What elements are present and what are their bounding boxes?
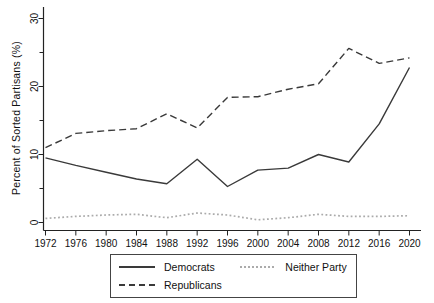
republicans-line-swatch-icon [119, 284, 155, 286]
x-tick-label: 2000 [247, 238, 270, 249]
series-line-democrats [46, 68, 410, 187]
legend: Democrats Neither Party Republicans [110, 254, 357, 298]
democrats-line-swatch-icon [119, 266, 155, 268]
legend-item-republicans: Republicans [119, 279, 240, 291]
legend-item-neither-party: Neither Party [240, 261, 348, 273]
y-tick-label: 10 [29, 149, 40, 161]
legend-label-neither-party: Neither Party [285, 261, 346, 273]
x-tick-label: 2008 [307, 238, 330, 249]
legend-label-republicans: Republicans [164, 279, 222, 291]
x-tick-label: 2004 [277, 238, 300, 249]
series-line-neither-party [46, 213, 410, 220]
sorted-partisans-chart: 0102030197219761980198419881992199620002… [0, 0, 434, 303]
y-axis-title: Percent of Sorted Partisans (%) [10, 0, 22, 238]
x-tick-label: 1988 [156, 238, 179, 249]
x-tick-label: 1984 [125, 238, 148, 249]
y-tick-label: 0 [29, 219, 40, 225]
series-line-republicans [46, 48, 410, 147]
legend-item-democrats: Democrats [119, 261, 240, 273]
x-tick-label: 1992 [186, 238, 209, 249]
x-tick-label: 2012 [338, 238, 361, 249]
x-tick-label: 2020 [398, 238, 421, 249]
y-tick-label: 30 [29, 13, 40, 25]
x-tick-label: 1996 [216, 238, 239, 249]
x-tick-label: 2016 [368, 238, 391, 249]
y-tick-label: 20 [29, 81, 40, 93]
x-tick-label: 1972 [34, 238, 57, 249]
neither-party-line-swatch-icon [240, 266, 276, 268]
x-tick-label: 1976 [65, 238, 88, 249]
legend-label-democrats: Democrats [164, 261, 215, 273]
x-tick-label: 1980 [95, 238, 118, 249]
